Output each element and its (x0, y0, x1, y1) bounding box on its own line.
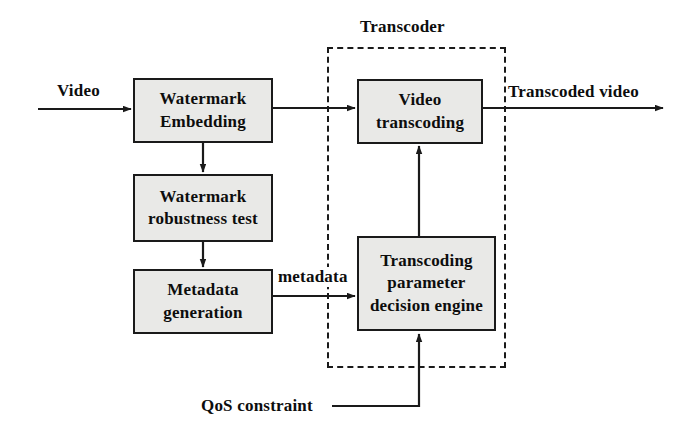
node-line: Video (399, 89, 442, 111)
node-transcoding-parameter-decision-engine[interactable]: Transcoding parameter decision engine (357, 236, 496, 331)
node-line: Transcoding (380, 250, 473, 272)
label-metadata: metadata (277, 267, 349, 287)
node-line: decision engine (370, 295, 483, 317)
node-line: transcoding (376, 112, 464, 134)
node-line: Metadata (167, 279, 238, 301)
node-metadata-generation[interactable]: Metadata generation (133, 269, 273, 334)
label-input-video: Video (56, 81, 101, 101)
label-output-transcoded-video: Transcoded video (507, 82, 640, 102)
node-line: parameter (387, 272, 465, 294)
node-line: robustness test (148, 208, 258, 230)
node-watermark-robustness-test[interactable]: Watermark robustness test (133, 174, 273, 242)
transcoder-group-label: Transcoder (360, 17, 445, 37)
node-watermark-embedding[interactable]: Watermark Embedding (133, 78, 273, 143)
diagram-canvas: Transcoder Watermark Embedding Watermark… (0, 0, 694, 441)
node-line: Watermark (160, 88, 247, 110)
node-line: Embedding (160, 111, 246, 133)
label-qos-constraint: QoS constraint (200, 396, 314, 416)
node-video-transcoding[interactable]: Video transcoding (357, 79, 483, 144)
node-line: generation (163, 302, 242, 324)
node-line: Watermark (160, 186, 247, 208)
